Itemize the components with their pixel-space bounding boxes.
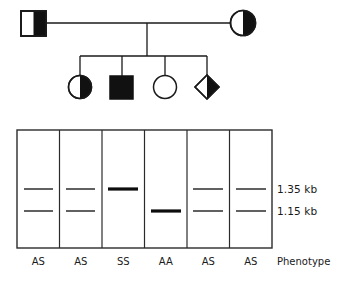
size-marker-label-lower: 1.15 kb [277,205,317,217]
phenotype-label-lane-1: AS [17,256,60,267]
pedigree-gel-figure: 1.35 kb 1.15 kb AS AS SS AA AS AS Phenot… [0,0,340,286]
phenotype-label-lane-5: AS [187,256,230,267]
mother-affected-half [243,11,255,36]
pedigree-symbol-child-3 [154,76,177,99]
phenotype-label-lane-3: SS [102,256,145,267]
pedigree-symbol-child-1 [69,76,92,99]
gel-group [17,130,272,248]
pedigree-group [21,11,256,100]
pedigree-symbol-child-2 [110,76,133,99]
child-3-circle-outline [154,76,177,99]
phenotype-row-title: Phenotype [277,256,330,267]
child-2-square-filled [110,76,133,99]
phenotype-label-lane-4: AA [145,256,188,267]
pedigree-symbol-child-4 [195,75,219,99]
size-marker-label-upper: 1.35 kb [277,183,317,195]
child-1-affected-half [80,76,92,99]
phenotype-label-lane-6: AS [230,256,273,267]
pedigree-symbol-father [21,11,46,36]
child-4-affected-half [207,75,219,99]
father-affected-half [34,11,47,36]
phenotype-label-lane-2: AS [60,256,103,267]
pedigree-symbol-mother [231,11,256,36]
figure-canvas [0,0,340,286]
